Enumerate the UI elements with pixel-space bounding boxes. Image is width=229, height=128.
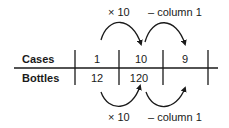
cases-cell-2: 10 bbox=[121, 53, 161, 65]
top-multiply-label: × 10 bbox=[108, 6, 130, 18]
bottles-cell-2: 120 bbox=[119, 72, 159, 84]
bottles-cell-1: 12 bbox=[77, 72, 117, 84]
arrow-times-10-bottom bbox=[101, 86, 140, 106]
top-subtract-label: – column 1 bbox=[148, 6, 202, 18]
bottom-multiply-label: × 10 bbox=[108, 111, 130, 123]
row-label-cases: Cases bbox=[22, 53, 54, 65]
arrow-minus-column1-bottom bbox=[146, 88, 185, 107]
row-label-bottles: Bottles bbox=[22, 72, 59, 84]
cases-cell-1: 1 bbox=[77, 53, 117, 65]
arrow-minus-column1-top bbox=[145, 23, 185, 44]
bottom-subtract-label: – column 1 bbox=[148, 111, 202, 123]
arrow-times-10-top bbox=[101, 22, 141, 44]
cases-cell-3: 9 bbox=[165, 53, 205, 65]
